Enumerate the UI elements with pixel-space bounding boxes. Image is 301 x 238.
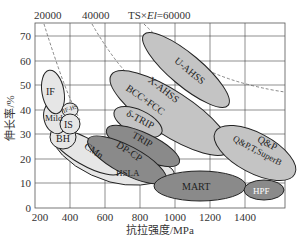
svg-text:60: 60 [20, 55, 32, 67]
y-axis-label: 伸长率/% [3, 95, 16, 140]
svg-text:40: 40 [20, 104, 32, 116]
x-axis-ticks: 200 400 600 800 1000 1200 1400 [32, 211, 257, 223]
svg-text:30: 30 [20, 128, 32, 140]
x-axis-label: 抗拉强度/MPa [126, 223, 194, 236]
svg-text:50: 50 [20, 79, 32, 91]
iso-label-20000: 20000 [34, 9, 62, 21]
svg-text:1400: 1400 [234, 211, 257, 223]
label-mild: Mild [45, 113, 63, 123]
svg-text:1000: 1000 [164, 211, 187, 223]
svg-text:70: 70 [20, 30, 32, 42]
label-hsla: HSLA [116, 168, 140, 178]
label-mart: MART [182, 181, 210, 192]
svg-text:600: 600 [97, 211, 114, 223]
svg-text:800: 800 [132, 211, 149, 223]
svg-text:20: 20 [20, 153, 32, 165]
svg-text:10: 10 [20, 177, 32, 189]
steel-banana-chart: IF IF-HS Mild IS BH CMn HSLA U-AHSS X-AH… [0, 0, 301, 238]
label-if: IF [46, 86, 55, 97]
label-bh: BH [56, 133, 70, 144]
svg-text:400: 400 [62, 211, 79, 223]
y-axis-ticks: 0 10 20 30 40 50 60 70 [20, 30, 32, 214]
iso-label-60000: TS×El=60000 [128, 9, 191, 21]
svg-text:1200: 1200 [199, 211, 222, 223]
svg-text:0: 0 [26, 202, 32, 214]
iso-label-40000: 40000 [82, 9, 110, 21]
svg-text:200: 200 [32, 211, 49, 223]
label-hpf: HPF [253, 186, 270, 196]
label-is: IS [64, 119, 73, 130]
